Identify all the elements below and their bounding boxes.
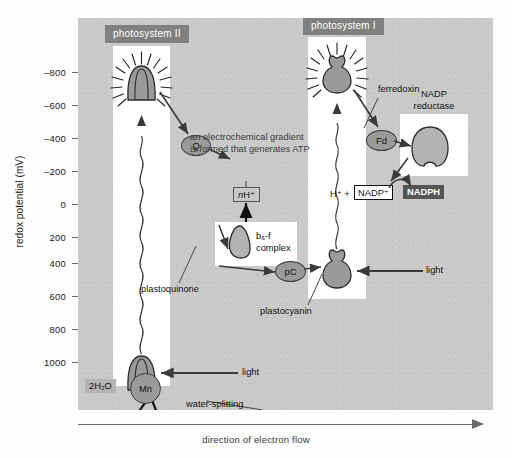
y-axis: redox potential (mV) –800 –600 –400 –200… <box>0 0 78 458</box>
electron-flow-axis-label: direction of electron flow <box>0 434 512 445</box>
nadp-reductase-panel <box>400 114 468 176</box>
y-tick-label: –400 <box>44 133 66 144</box>
light-label-top: light <box>426 265 443 275</box>
nadp-reductase-line2: reductase <box>402 100 466 112</box>
plastocyanin-node-label: pC <box>285 267 297 277</box>
electron-flow-axis-line <box>78 424 476 425</box>
electron-flow-arrowhead <box>472 419 484 429</box>
arrow-b6f-to-pc <box>219 266 275 272</box>
water-splitting-line1: water-splitting <box>186 398 243 410</box>
plot-area: photosystem II photosystem I Q pC Fd Mn … <box>78 18 493 410</box>
b6f-label-line1: b₆-f <box>256 230 291 242</box>
proton-gradient-badge: nH⁺ <box>233 187 260 202</box>
psii-header-label: photosystem II <box>105 25 189 43</box>
psii-panel <box>113 46 170 386</box>
psi-header-label: photosystem I <box>303 18 384 35</box>
b6f-label-line2: complex <box>256 242 291 254</box>
figure-canvas: redox potential (mV) –800 –600 –400 –200… <box>0 0 512 458</box>
water-badge: 2H₂O <box>85 379 116 393</box>
nadp-reductase-label: NADP reductase <box>402 88 466 112</box>
y-tick-label: 600 <box>50 291 66 302</box>
y-tick-label: –200 <box>44 166 66 177</box>
nadp-plus-badge: NADP⁺ <box>354 185 393 200</box>
y-tick-label: 1000 <box>44 357 66 368</box>
y-tick-label: 200 <box>50 232 66 243</box>
plastoquinone-label: plastoquinone <box>141 284 199 294</box>
gradient-note: an electrochemical gradient is formed th… <box>190 132 310 155</box>
y-axis-title: redox potential (mV) <box>14 122 25 282</box>
y-tick-label: –800 <box>44 67 66 78</box>
hplus-label: H⁺ + <box>330 188 350 199</box>
water-splitting-enzyme-label: water-splitting enzyme <box>186 398 243 410</box>
nadph-badge: NADPH <box>403 185 444 199</box>
y-tick-label: 800 <box>50 324 66 335</box>
y-tick-label: 400 <box>50 258 66 269</box>
light-label-bottom: light <box>242 367 259 377</box>
plastocyanin-label: plastocyanin <box>260 306 312 316</box>
b6f-complex-label: b₆-f complex <box>256 230 291 254</box>
leader-plastoquinone <box>179 246 196 283</box>
psi-panel <box>308 37 366 299</box>
y-tick-label: –600 <box>44 100 66 111</box>
manganese-node-label: Mn <box>139 384 152 394</box>
leader-ferredoxin <box>364 98 378 128</box>
gradient-note-line1: an electrochemical gradient <box>190 132 310 144</box>
gradient-note-line2: is formed that generates ATP <box>190 144 310 156</box>
ferredoxin-node-label: Fd <box>376 136 387 146</box>
nadp-reductase-line1: NADP <box>402 88 466 100</box>
plastocyanin-node: pC <box>275 261 306 282</box>
ferredoxin-node: Fd <box>366 130 397 151</box>
manganese-node: Mn <box>130 373 161 404</box>
y-tick-label: 0 <box>61 199 66 210</box>
